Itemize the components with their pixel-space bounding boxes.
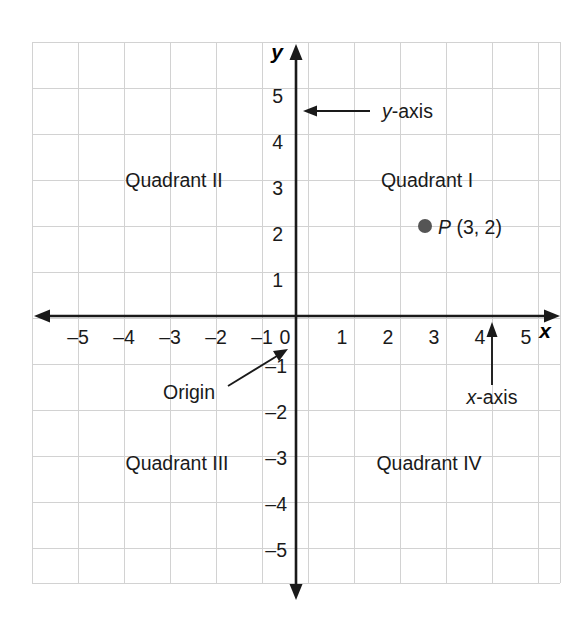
y-tick-label--4: –4 (265, 493, 287, 515)
y-axis-arrow-up-icon (290, 44, 303, 60)
y-tick-label--3: –3 (265, 447, 287, 469)
y-tick-label-1: 1 (272, 269, 283, 291)
y-axis-arrow-down-icon (290, 584, 303, 600)
y-tick-label-4: 4 (272, 131, 283, 153)
x-tick-label-3: 3 (429, 326, 440, 348)
point-label-p-name: P (438, 216, 451, 238)
y-tick-label-5: 5 (272, 85, 283, 107)
x-tick-label-1: 1 (337, 326, 348, 348)
x-tick-labels-group: –5 –4 –3 –2 –1 0 1 2 3 4 5 (67, 326, 531, 348)
callout-x-axis-rest: -axis (476, 386, 517, 408)
callout-x-axis-label: x-axis (466, 386, 518, 408)
y-tick-label-2: 2 (272, 223, 283, 245)
x-tick-label--1: –1 (251, 326, 273, 348)
x-tick-label-0: 0 (280, 326, 291, 348)
coordinate-plane-figure: x y –5 –4 –3 –2 –1 0 1 2 3 4 5 5 4 3 2 1… (0, 0, 588, 618)
callout-y-axis-rest: -axis (392, 100, 433, 122)
quadrant-label-iii: Quadrant III (126, 452, 229, 474)
callout-y-axis-group: y-axis (303, 100, 433, 122)
y-tick-label--1: –1 (265, 355, 287, 377)
point-label-p: P (3, 2) (438, 216, 502, 238)
quadrant-label-i: Quadrant I (381, 169, 473, 191)
y-tick-label--2: –2 (265, 401, 287, 423)
axis-group: x y (34, 40, 560, 600)
quadrant-labels-group: Quadrant II Quadrant I Quadrant III Quad… (125, 169, 481, 474)
x-tick-label--4: –4 (113, 326, 135, 348)
callout-x-axis-arrow-icon (487, 322, 498, 337)
x-tick-label--3: –3 (159, 326, 181, 348)
quadrant-label-ii: Quadrant II (125, 169, 223, 191)
y-tick-label-3: 3 (272, 177, 283, 199)
quadrant-label-iv: Quadrant IV (376, 452, 481, 474)
x-tick-label--2: –2 (205, 326, 227, 348)
point-label-p-coords: (3, 2) (451, 216, 502, 238)
x-tick-label--5: –5 (67, 326, 89, 348)
x-axis-name: x (538, 319, 552, 342)
callout-y-axis-arrow-icon (303, 106, 317, 117)
coordinate-plane-svg: x y –5 –4 –3 –2 –1 0 1 2 3 4 5 5 4 3 2 1… (0, 0, 588, 618)
x-tick-label-2: 2 (383, 326, 394, 348)
y-axis-name: y (270, 40, 284, 63)
y-tick-labels-group: 5 4 3 2 1 –1 –2 –3 –4 –5 (265, 85, 287, 561)
callout-origin-label: Origin (163, 381, 215, 403)
x-axis-arrow-left-icon (34, 310, 50, 323)
y-tick-label--5: –5 (265, 539, 287, 561)
x-tick-label-4: 4 (475, 326, 486, 348)
x-tick-label-5: 5 (521, 326, 532, 348)
callout-y-axis-label: y-axis (380, 100, 433, 122)
plotted-point-group: P (3, 2) (418, 216, 502, 238)
point-marker-p (418, 219, 432, 233)
